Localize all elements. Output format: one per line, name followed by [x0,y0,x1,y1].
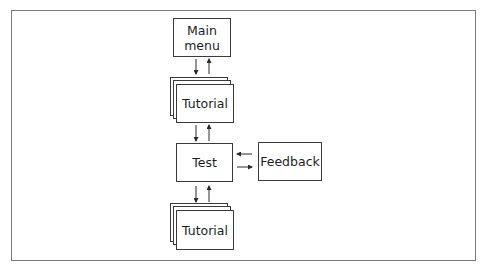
tutorial-top-label: Tutorial [182,96,228,111]
main-menu-label-line2: menu [184,38,220,53]
main-menu-label-line1: Main [187,23,217,38]
feedback-node: Feedback [258,142,322,181]
main-menu-node: Main menu [173,18,231,57]
test-label: Test [192,155,217,170]
feedback-label: Feedback [260,154,320,169]
tutorial-top-node: Tutorial [176,84,234,123]
tutorial-bottom-node: Tutorial [176,210,234,250]
test-node: Test [176,143,233,182]
tutorial-bottom-label: Tutorial [182,223,228,238]
diagram-frame [11,10,476,261]
